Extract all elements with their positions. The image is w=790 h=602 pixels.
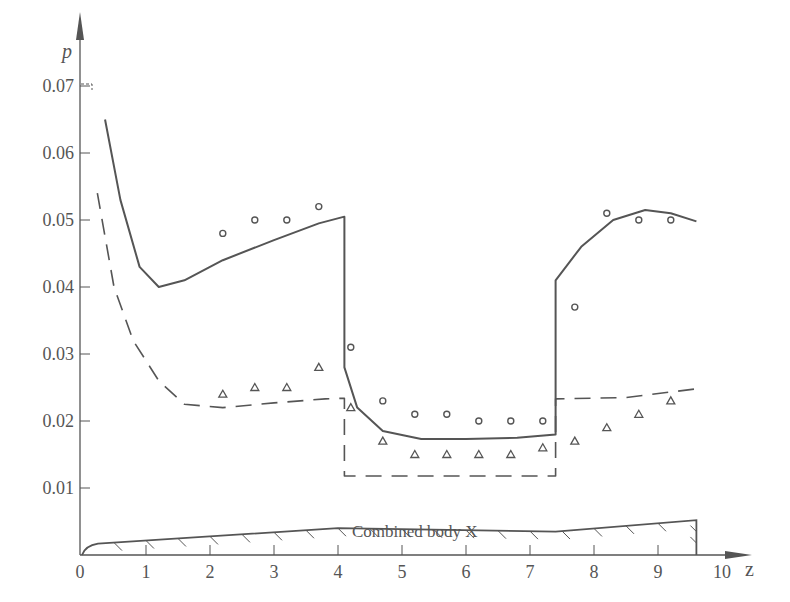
circle-marker-icon: [636, 217, 642, 223]
x-tick-label: 0: [76, 562, 85, 582]
body-label: Combined body X: [352, 522, 478, 541]
circle-marker-icon: [412, 411, 418, 417]
circle-marker-icon: [220, 230, 226, 236]
top-bracket-mark: [81, 84, 92, 90]
circle-marker-icon: [444, 411, 450, 417]
pressure-distribution-chart: 0.010.020.030.040.050.060.07012345678910…: [0, 0, 790, 602]
y-axis-arrow-icon: [76, 12, 84, 40]
circle-marker-icon: [348, 344, 354, 350]
x-tick-label: 7: [526, 562, 535, 582]
curves: [97, 120, 696, 476]
triangle-marker-icon: [219, 390, 227, 397]
body-hatch: [658, 523, 666, 531]
body-hatch: [178, 538, 186, 546]
x-tick-label: 6: [462, 562, 471, 582]
circle-marker-icon: [284, 217, 290, 223]
x-tick-label: 5: [398, 562, 407, 582]
circle-marker-icon: [252, 217, 258, 223]
triangle-marker-icon: [475, 451, 483, 458]
triangle-marker-icon: [315, 363, 323, 370]
circle-marker-icon: [380, 398, 386, 404]
triangle-marker-icon: [667, 397, 675, 404]
circle-marker-icon: [572, 304, 578, 310]
triangle-marker-icon: [251, 384, 259, 391]
y-tick-label: 0.07: [43, 76, 75, 96]
circle-marker-icon: [508, 418, 514, 424]
circle-marker-icon: [476, 418, 482, 424]
triangle-marker-icon: [443, 451, 451, 458]
triangle-marker-icon: [379, 437, 387, 444]
triangle-marker-icon: [571, 437, 579, 444]
triangle-marker-icon: [539, 444, 547, 451]
x-tick-label: 8: [590, 562, 599, 582]
body-hatch: [498, 531, 506, 539]
body-hatch: [562, 531, 570, 539]
body-hatch: [338, 528, 346, 536]
circle-marker-icon: [668, 217, 674, 223]
circle-marker-icon: [604, 210, 610, 216]
y-tick-label: 0.06: [43, 143, 75, 163]
body-hatch: [274, 532, 282, 540]
triangle-marker-icon: [283, 384, 291, 391]
markers: [219, 204, 675, 458]
y-tick-label: 0.01: [43, 478, 75, 498]
y-axis-label: p: [60, 40, 72, 63]
y-tick-label: 0.05: [43, 210, 75, 230]
body-hatch: [114, 543, 122, 551]
triangle-marker-icon: [635, 410, 643, 417]
y-tick-label: 0.02: [43, 411, 75, 431]
x-tick-label: 10: [713, 562, 731, 582]
body-hatch: [242, 534, 250, 542]
x-axis-label: z: [745, 558, 754, 580]
body-hatch: [146, 541, 154, 549]
x-tick-label: 9: [654, 562, 663, 582]
x-tick-label: 3: [270, 562, 279, 582]
body-hatch: [306, 530, 314, 538]
triangle-marker-icon: [507, 451, 515, 458]
axes: 0.010.020.030.040.050.060.07012345678910: [43, 12, 753, 582]
x-tick-label: 4: [334, 562, 343, 582]
body-hatch: [626, 526, 634, 534]
body-hatch: [594, 528, 602, 536]
y-tick-label: 0.03: [43, 344, 75, 364]
y-tick-label: 0.04: [43, 277, 75, 297]
body-hatch: [210, 536, 218, 544]
x-tick-label: 2: [206, 562, 215, 582]
triangle-marker-icon: [347, 404, 355, 411]
circle-marker-icon: [540, 418, 546, 424]
x-tick-label: 1: [142, 562, 151, 582]
triangle-marker-icon: [411, 451, 419, 458]
circle-marker-icon: [316, 204, 322, 210]
solid-curve: [105, 120, 696, 440]
triangle-marker-icon: [603, 424, 611, 431]
body-hatch: [530, 531, 538, 539]
